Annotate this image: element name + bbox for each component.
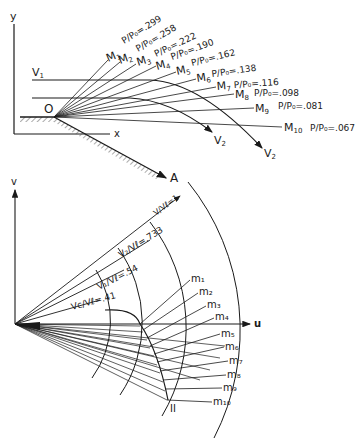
svg-text:P/P₀=.081: P/P₀=.081 [278,101,323,111]
svg-text:m₅: m₅ [221,328,235,339]
svg-text:P/P₀=.138: P/P₀=.138 [211,63,257,79]
v1-label: V1 [32,66,44,80]
wall-inclined [54,117,166,178]
curve-label-ii: II [170,403,176,414]
wall-hatch-inclined [52,117,160,180]
prandtl-meyer-diagram: y x A O V1 V2 V2 [0,0,358,443]
epicycloid-curve [105,310,168,400]
svg-text:M9: M9 [255,102,269,116]
hodograph-diagram: v u II V/Vℓ=1 V₂/Vℓ=.733 V₁/Vℓ=.54 Vc/Vℓ… [11,176,261,438]
svg-text:m₁: m₁ [191,273,205,284]
v-axis-label: v [11,176,17,187]
svg-text:M8: M8 [235,88,249,102]
ratio-v2-label: V₂/Vℓ=.733 [117,225,165,260]
m-labels: m₁ m₂ m₃ m₄ m₅ m₆ m₇ m₈ m₉ m₁₀ [191,273,243,407]
svg-text:m₆: m₆ [225,341,239,352]
svg-text:M5: M5 [175,62,192,79]
u-axis-label: u [254,318,261,329]
svg-text:m₉: m₉ [223,382,237,393]
svg-text:M4: M4 [154,56,172,73]
svg-text:M7: M7 [216,79,231,94]
pressure-ratio-labels: P/P₀=.299 P/P₀=.258 P/P₀=.222 P/P₀=.190 … [120,13,355,133]
svg-text:m₈: m₈ [227,369,241,380]
svg-text:m₁₀: m₁₀ [213,396,231,407]
origin-label: O [44,102,53,116]
wall-hatch-flat [20,117,54,122]
v2-label-a: V2 [214,134,226,148]
svg-text:P/P₀=.067: P/P₀=.067 [310,123,355,133]
svg-text:m₄: m₄ [215,311,229,322]
ratio-vl-label: V/Vℓ=1 [152,193,180,217]
ratio-v1-label: V₁/Vℓ=.54 [95,263,139,292]
x-axis-label: x [114,128,120,139]
svg-text:m₇: m₇ [229,355,243,366]
wall-label-a: A [170,171,179,185]
svg-text:M10: M10 [284,121,302,135]
svg-text:M2: M2 [117,50,135,68]
svg-text:M6: M6 [196,70,212,86]
svg-text:m₃: m₃ [207,299,221,310]
v2-label-b: V2 [264,147,276,161]
top-expansion-diagram: y x A O V1 V2 V2 [10,10,355,185]
svg-text:M3: M3 [135,52,153,70]
svg-text:P/P₀=.098: P/P₀=.098 [254,88,299,98]
y-axis-label: y [10,10,17,23]
svg-text:m₂: m₂ [199,286,213,297]
